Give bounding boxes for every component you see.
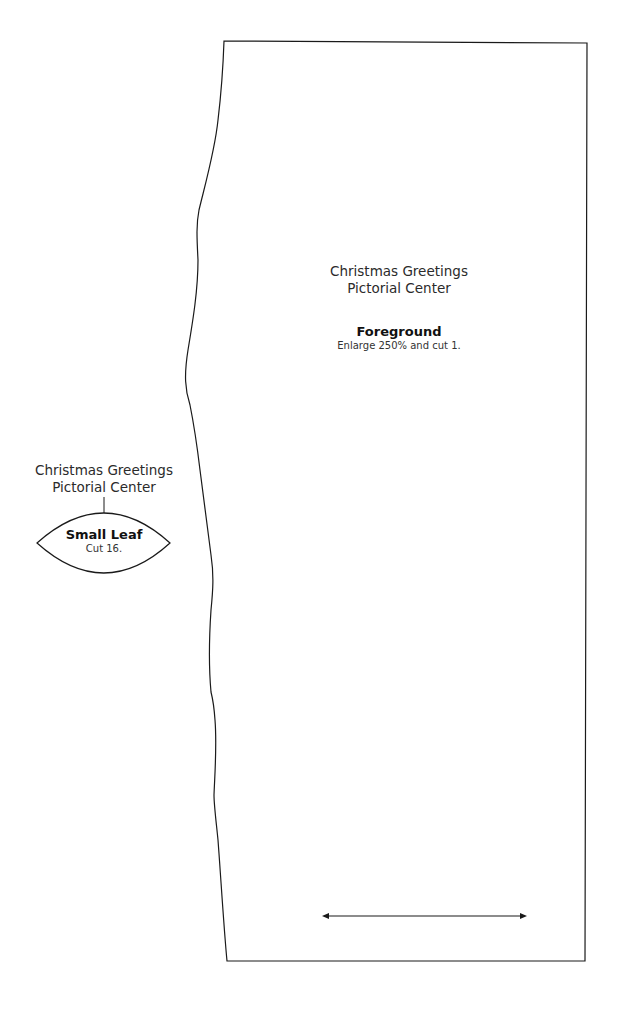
small-leaf-label: Small Leaf Cut 16. — [44, 527, 164, 556]
piece-instruction: Cut 16. — [44, 543, 164, 556]
pattern-drawing — [0, 0, 622, 1009]
foreground-piece-outline — [186, 41, 587, 961]
piece-name: Small Leaf — [44, 527, 164, 543]
project-title-line2: Pictorial Center — [288, 280, 510, 297]
piece-name: Foreground — [288, 324, 510, 340]
small-leaf-project-label: Christmas Greetings Pictorial Center — [14, 462, 194, 496]
project-title-line1: Christmas Greetings — [14, 462, 194, 479]
piece-instruction: Enlarge 250% and cut 1. — [288, 340, 510, 353]
project-title-line2: Pictorial Center — [14, 479, 194, 496]
grainline-arrow-icon — [322, 913, 527, 919]
foreground-label: Christmas Greetings Pictorial Center For… — [288, 263, 510, 353]
project-title-line1: Christmas Greetings — [288, 263, 510, 280]
